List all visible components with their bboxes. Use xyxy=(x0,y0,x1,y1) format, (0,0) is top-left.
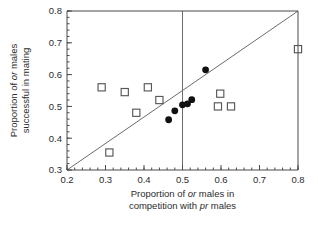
data-point-open-square xyxy=(106,149,113,156)
x-tick-label: 0.2 xyxy=(60,174,73,185)
y-tick-label: 0.7 xyxy=(49,37,62,48)
x-tick-label: 0.7 xyxy=(253,174,266,185)
data-point-open-square xyxy=(217,90,224,97)
y-axis-title-line: successful in mating xyxy=(20,48,31,134)
data-point-open-square xyxy=(121,88,128,95)
series-filled-circles xyxy=(165,66,209,123)
data-point-filled-circle xyxy=(165,116,172,123)
x-tick-label: 0.3 xyxy=(99,174,112,185)
x-tick-label: 0.8 xyxy=(291,174,304,185)
scatter-plot-figure: 0.20.30.40.50.60.70.8 0.30.40.50.60.70.8… xyxy=(0,0,318,226)
data-point-open-square xyxy=(156,96,163,103)
series-open-squares xyxy=(98,46,302,157)
y-axis-title: Proportion of or malessuccessful in mati… xyxy=(8,44,31,138)
y-axis-tick-labels: 0.30.40.50.60.70.8 xyxy=(49,5,62,175)
data-point-open-square xyxy=(98,84,105,91)
x-axis-tick-labels: 0.20.30.40.50.60.70.8 xyxy=(60,174,304,185)
y-tick-label: 0.3 xyxy=(49,164,62,175)
x-axis-title-line: Proportion of or males in xyxy=(131,188,235,199)
x-tick-label: 0.5 xyxy=(176,174,189,185)
data-point-open-square xyxy=(227,103,234,110)
data-point-filled-circle xyxy=(188,96,195,103)
data-point-filled-circle xyxy=(202,66,209,73)
x-axis-ticks xyxy=(67,165,298,170)
data-point-open-square xyxy=(144,84,151,91)
x-tick-label: 0.6 xyxy=(214,174,227,185)
plot-canvas: 0.20.30.40.50.60.70.8 0.30.40.50.60.70.8… xyxy=(0,0,318,226)
y-tick-label: 0.8 xyxy=(49,5,62,16)
y-tick-label: 0.6 xyxy=(49,69,62,80)
data-point-open-square xyxy=(214,103,221,110)
x-axis-title-line: competition with pr males xyxy=(129,200,236,211)
x-tick-label: 0.4 xyxy=(137,174,150,185)
y-tick-label: 0.4 xyxy=(49,133,62,144)
data-point-open-square xyxy=(133,109,140,116)
data-point-filled-circle xyxy=(171,107,178,114)
x-axis-title: Proportion of or males incompetition wit… xyxy=(129,188,236,211)
y-axis-title-line: Proportion of or males xyxy=(8,44,19,138)
y-axis-ticks xyxy=(67,11,72,170)
y-tick-label: 0.5 xyxy=(49,101,62,112)
